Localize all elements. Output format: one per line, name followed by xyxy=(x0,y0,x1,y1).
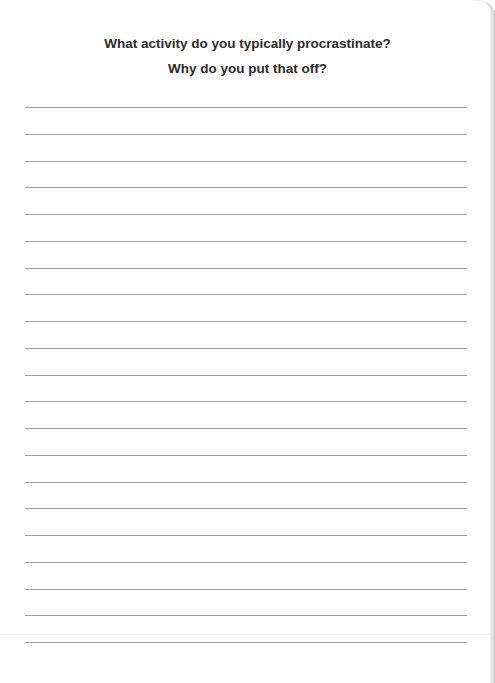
page-edge-shadow xyxy=(490,10,495,683)
writing-line xyxy=(25,187,467,188)
journal-page: What activity do you typically procrasti… xyxy=(0,0,490,683)
writing-lines[interactable] xyxy=(25,0,467,683)
writing-line xyxy=(25,134,467,135)
writing-line xyxy=(25,321,467,322)
writing-line xyxy=(25,482,467,483)
writing-line xyxy=(25,214,467,215)
writing-line xyxy=(25,268,467,269)
writing-line xyxy=(25,107,467,108)
writing-line xyxy=(25,508,467,509)
writing-line xyxy=(25,615,467,616)
writing-line xyxy=(25,294,467,295)
writing-line xyxy=(25,241,467,242)
writing-line xyxy=(25,161,467,162)
writing-line xyxy=(25,589,467,590)
writing-line xyxy=(25,428,467,429)
writing-line xyxy=(25,562,467,563)
writing-line xyxy=(25,642,467,643)
writing-line xyxy=(25,455,467,456)
writing-line xyxy=(25,375,467,376)
writing-line xyxy=(25,348,467,349)
writing-line xyxy=(25,535,467,536)
writing-line xyxy=(25,401,467,402)
